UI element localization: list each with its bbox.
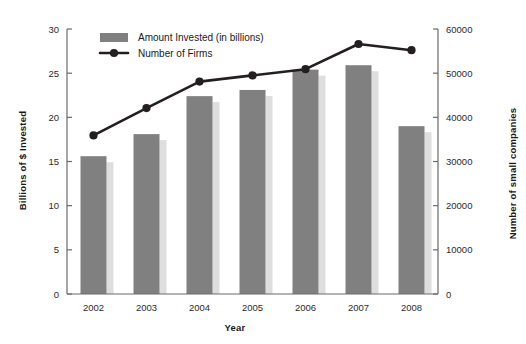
legend-label-amount-invested: Amount Invested (in billions) bbox=[138, 32, 264, 43]
legend-swatch-bar bbox=[100, 33, 128, 42]
y-axis-right-tick-label: 30000 bbox=[446, 156, 472, 167]
bar-shadow bbox=[266, 96, 273, 294]
y-axis-left-tick-label: 0 bbox=[54, 289, 59, 300]
bar bbox=[346, 65, 372, 294]
bar bbox=[399, 126, 425, 294]
y-axis-right-tick-label: 20000 bbox=[446, 200, 472, 211]
legend-label-number-of-firms: Number of Firms bbox=[138, 48, 212, 59]
y-axis-left-tick-label: 20 bbox=[48, 112, 59, 123]
y-axis-right-tick-label: 60000 bbox=[446, 24, 472, 35]
y-axis-right-tick-label: 50000 bbox=[446, 68, 472, 79]
x-axis-tick-label: 2004 bbox=[189, 302, 210, 313]
bar bbox=[134, 134, 160, 294]
bar bbox=[187, 96, 213, 294]
y-axis-right-tick-label: 10000 bbox=[446, 244, 472, 255]
chart-container: Billions of $ Invested Number of small c… bbox=[0, 0, 526, 344]
chart-plot-area: 0510152025300100002000030000400005000060… bbox=[0, 0, 526, 344]
bar-shadow bbox=[319, 76, 326, 294]
x-axis-tick-label: 2008 bbox=[401, 302, 422, 313]
line-data-point bbox=[301, 65, 309, 73]
line-data-point bbox=[89, 131, 97, 139]
bar bbox=[81, 156, 107, 294]
x-axis-tick-label: 2002 bbox=[83, 302, 104, 313]
bar bbox=[240, 90, 266, 294]
legend-marker-dot bbox=[110, 49, 118, 57]
y-axis-left-tick-label: 25 bbox=[48, 68, 59, 79]
bar-shadow bbox=[425, 132, 432, 294]
bar-shadow bbox=[213, 102, 220, 294]
x-axis-tick-label: 2003 bbox=[136, 302, 157, 313]
bar-shadow bbox=[372, 71, 379, 294]
line-data-point bbox=[195, 78, 203, 86]
y-axis-left-tick-label: 15 bbox=[48, 156, 59, 167]
y-axis-left-tick-label: 10 bbox=[48, 200, 59, 211]
legend-group: Amount Invested (in billions)Number of F… bbox=[100, 32, 264, 59]
bar-series-group bbox=[81, 65, 432, 294]
bar-shadow bbox=[107, 162, 114, 294]
line-data-point bbox=[142, 104, 150, 112]
bar bbox=[293, 70, 319, 294]
x-axis-tick-label: 2007 bbox=[348, 302, 369, 313]
line-data-point bbox=[248, 71, 256, 79]
bar-shadow bbox=[160, 140, 167, 294]
y-axis-right-tick-label: 40000 bbox=[446, 112, 472, 123]
line-data-point bbox=[407, 46, 415, 54]
x-axis-tick-label: 2005 bbox=[242, 302, 263, 313]
x-axis-tick-label: 2006 bbox=[295, 302, 316, 313]
y-axis-left-tick-label: 30 bbox=[48, 24, 59, 35]
y-axis-right-tick-label: 0 bbox=[446, 289, 451, 300]
line-data-point bbox=[354, 40, 362, 48]
y-axis-left-tick-label: 5 bbox=[54, 244, 59, 255]
